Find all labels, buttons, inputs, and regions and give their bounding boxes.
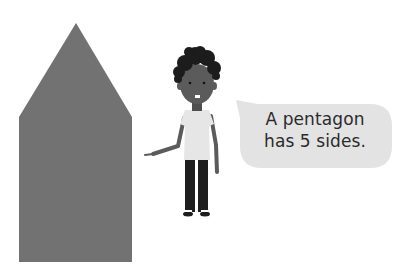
speech-bubble-text: A pentagon has 5 sides. [240, 108, 390, 152]
pentagon-shape [19, 23, 132, 262]
boy-character [145, 46, 221, 217]
speech-line-2: has 5 sides. [240, 130, 390, 152]
illustration-scene: A pentagon has 5 sides. [0, 0, 395, 276]
speech-line-1: A pentagon [240, 108, 390, 130]
